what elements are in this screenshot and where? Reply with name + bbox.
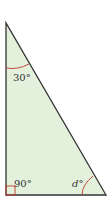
- triangle-shape: [6, 23, 106, 195]
- angle-label-bottom-right: d°: [72, 178, 83, 189]
- angle-label-bottom-left: 90°: [14, 178, 32, 189]
- angle-label-top: 30°: [13, 72, 31, 83]
